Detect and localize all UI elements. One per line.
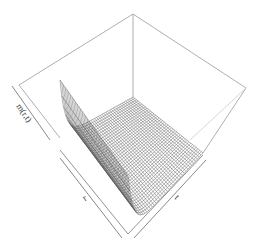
surface-plot xyxy=(0,0,257,249)
r-axis-arrow xyxy=(60,158,122,238)
